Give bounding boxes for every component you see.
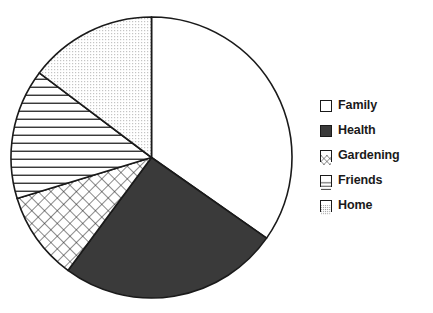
legend-swatch-health-icon <box>320 125 332 137</box>
legend-swatch-home-icon <box>320 200 332 212</box>
crosshatch-pattern-icon <box>321 155 331 165</box>
legend-label-family: Family <box>338 99 377 112</box>
legend-label-gardening: Gardening <box>338 149 400 162</box>
legend-label-health: Health <box>338 124 376 137</box>
legend-item-family[interactable]: Family <box>320 93 433 118</box>
horizontal-lines-pattern-icon <box>321 180 331 190</box>
pie-chart-figure: Family Health Gardening Friends <box>0 0 433 313</box>
legend-label-friends: Friends <box>338 174 382 187</box>
legend-swatch-gardening-icon <box>320 150 332 162</box>
legend-swatch-friends-icon <box>320 175 332 187</box>
legend-item-home[interactable]: Home <box>320 193 433 218</box>
legend-item-friends[interactable]: Friends <box>320 168 433 193</box>
legend-label-home: Home <box>338 199 372 212</box>
legend-item-health[interactable]: Health <box>320 118 433 143</box>
legend-item-gardening[interactable]: Gardening <box>320 143 433 168</box>
legend-swatch-family-icon <box>320 100 332 112</box>
dotted-pattern-icon <box>321 205 331 215</box>
chart-legend: Family Health Gardening Friends <box>320 93 433 218</box>
pie-slices-group <box>11 17 292 298</box>
